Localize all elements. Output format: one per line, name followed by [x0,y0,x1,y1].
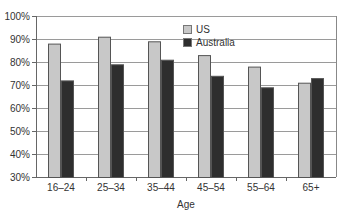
bar-australia [262,88,274,178]
x-tick-label: 55–64 [236,182,286,193]
bar-us [299,83,311,177]
x-tick-label: 65+ [286,182,336,193]
legend-swatch [183,25,192,34]
bar-us [149,42,161,178]
bar-us [49,44,61,177]
x-tick-label: 45–54 [186,182,236,193]
x-tick-label: 35–44 [136,182,186,193]
bar-us [99,37,111,177]
y-tick-label: 50% [0,126,30,137]
y-tick-label: 100% [0,11,30,22]
y-tick-label: 80% [0,57,30,68]
y-tick-label: 70% [0,80,30,91]
bar-australia [212,76,224,177]
bar-us [249,67,261,177]
bar-australia [162,60,174,177]
x-tick-label: 16–24 [36,182,86,193]
legend-item-australia: Australia [183,37,235,48]
bar-australia [112,65,124,178]
x-tick-label: 25–34 [86,182,136,193]
x-axis-label: Age [156,199,216,210]
y-tick-label: 40% [0,149,30,160]
bar-us [199,56,211,178]
y-tick-label: 60% [0,103,30,114]
bar-australia [62,81,74,178]
y-tick-label: 90% [0,34,30,45]
y-tick-label: 30% [0,172,30,183]
bar-australia [312,79,324,178]
legend-swatch [183,38,192,47]
legend-item-us: US [183,24,210,35]
grouped-bar-chart: 30%40%50%60%70%80%90%100% 16–2425–3435–4… [0,0,346,220]
legend-label: Australia [196,37,235,48]
legend-label: US [196,24,210,35]
